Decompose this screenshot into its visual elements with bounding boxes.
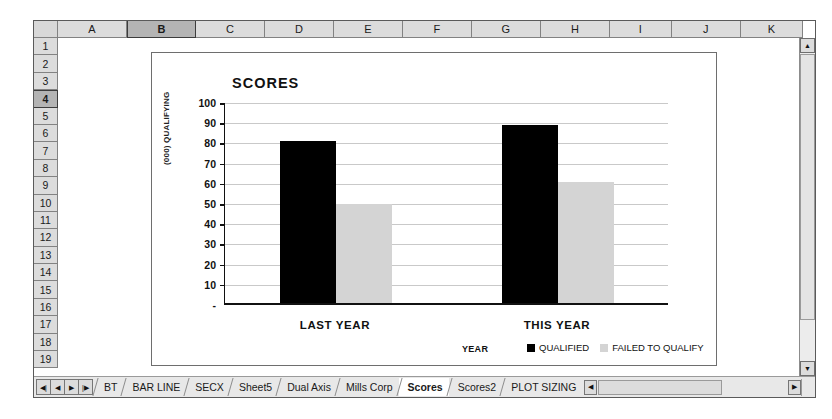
column-header-a[interactable]: A xyxy=(58,21,127,38)
y-tick-label-100: 100 xyxy=(198,97,216,109)
horizontal-scrollbar[interactable]: ◀ ▶ xyxy=(584,379,816,396)
y-tick-100 xyxy=(220,103,225,105)
category-label-this-year: THIS YEAR xyxy=(446,319,668,331)
row-header-1[interactable]: 1 xyxy=(34,38,58,55)
sheet-tab-secx[interactable]: SECX xyxy=(186,378,230,396)
y-axis-title: (000) QUALIFYING xyxy=(162,151,171,165)
column-header-e[interactable]: E xyxy=(334,21,403,38)
gridline-90 xyxy=(225,123,668,124)
column-header-b[interactable]: B xyxy=(127,21,196,38)
sheet-tab-scores[interactable]: Scores xyxy=(399,378,449,396)
last-sheet-icon[interactable]: |▶ xyxy=(78,379,93,395)
plot-area xyxy=(224,103,668,305)
scroll-right-icon[interactable]: ▶ xyxy=(788,380,801,395)
y-tick-label-50: 50 xyxy=(204,198,216,210)
row-header-13[interactable]: 13 xyxy=(34,247,58,264)
bar-this-year-failed-to-qualify[interactable] xyxy=(558,182,614,303)
y-tick-60 xyxy=(220,184,225,186)
y-tick-20 xyxy=(220,265,225,267)
gridline-100 xyxy=(225,103,668,104)
y-tick-40 xyxy=(220,224,225,226)
y-tick-label-20: 20 xyxy=(204,259,216,271)
row-header-8[interactable]: 8 xyxy=(34,160,58,177)
legend-label: FAILED TO QUALIFY xyxy=(612,342,704,353)
sheet-tabs: BTBAR LINESECXSheet5Dual AxisMills CorpS… xyxy=(95,378,582,397)
sheet-tab-plot-sizing[interactable]: PLOT SIZING xyxy=(502,378,582,396)
row-header-10[interactable]: 10 xyxy=(34,195,58,212)
y-tick-label-10: 10 xyxy=(204,279,216,291)
sheet-tab-bar-line[interactable]: BAR LINE xyxy=(123,378,186,396)
y-tick-10 xyxy=(220,285,225,287)
column-header-j[interactable]: J xyxy=(672,21,741,38)
row-header-6[interactable]: 6 xyxy=(34,125,58,142)
chart-plot-wrapper: (000) QUALIFYING 100908070605040302010- … xyxy=(152,53,718,367)
sheet-tab-bt[interactable]: BT xyxy=(95,378,123,396)
sheet-tab-mills-corp[interactable]: Mills Corp xyxy=(337,378,399,396)
y-tick-30 xyxy=(220,244,225,246)
bar-this-year-qualified[interactable] xyxy=(502,125,558,303)
sheet-tab-scores2[interactable]: Scores2 xyxy=(449,378,503,396)
first-sheet-icon[interactable]: ◀| xyxy=(36,379,51,395)
row-header-15[interactable]: 15 xyxy=(34,281,58,298)
horizontal-scroll-track[interactable] xyxy=(598,380,722,395)
vertical-scrollbar[interactable]: ▲ ▼ xyxy=(799,38,815,376)
vertical-scroll-thumb[interactable] xyxy=(800,54,815,320)
row-header-12[interactable]: 12 xyxy=(34,229,58,246)
row-header-17[interactable]: 17 xyxy=(34,316,58,333)
y-tick-70 xyxy=(220,164,225,166)
row-header-2[interactable]: 2 xyxy=(34,55,58,72)
spreadsheet-window: ABCDEFGHIJK 1234567891011121314151617181… xyxy=(33,20,816,398)
row-header-11[interactable]: 11 xyxy=(34,212,58,229)
column-header-i[interactable]: I xyxy=(610,21,672,38)
y-axis-tick-labels: 100908070605040302010- xyxy=(182,103,216,305)
scroll-up-icon[interactable]: ▲ xyxy=(800,38,815,53)
chart-object[interactable]: SCORES (000) QUALIFYING 1009080706050403… xyxy=(151,52,717,366)
next-sheet-icon[interactable]: ▶ xyxy=(64,379,79,395)
bar-last-year-qualified[interactable] xyxy=(280,141,336,303)
x-axis-title: YEAR xyxy=(462,344,488,354)
previous-sheet-icon[interactable]: ◀ xyxy=(50,379,65,395)
y-tick-label-60: 60 xyxy=(204,178,216,190)
row-header-14[interactable]: 14 xyxy=(34,264,58,281)
sheet-tab-dual-axis[interactable]: Dual Axis xyxy=(278,378,337,396)
column-header-c[interactable]: C xyxy=(196,21,265,38)
y-tick-label-zero: - xyxy=(213,299,217,311)
row-header-7[interactable]: 7 xyxy=(34,142,58,159)
row-header-column: 12345678910111213141516171819 xyxy=(34,38,58,368)
select-all-corner[interactable] xyxy=(34,21,58,38)
category-label-last-year: LAST YEAR xyxy=(224,319,446,331)
legend-item-failed-to-qualify[interactable]: FAILED TO QUALIFY xyxy=(600,342,704,353)
column-header-h[interactable]: H xyxy=(541,21,610,38)
legend-item-qualified[interactable]: QUALIFIED xyxy=(527,342,589,353)
sheet-nav-buttons: ◀|◀▶|▶ xyxy=(34,379,92,395)
column-header-g[interactable]: G xyxy=(472,21,541,38)
chart-legend: QUALIFIEDFAILED TO QUALIFY xyxy=(527,342,704,353)
column-header-d[interactable]: D xyxy=(265,21,334,38)
y-tick-label-80: 80 xyxy=(204,137,216,149)
y-tick-label-30: 30 xyxy=(204,238,216,250)
y-tick-50 xyxy=(220,204,225,206)
y-tick-label-40: 40 xyxy=(204,218,216,230)
sheet-grid[interactable]: SCORES (000) QUALIFYING 1009080706050403… xyxy=(58,38,799,376)
y-tick-90 xyxy=(220,123,225,125)
row-header-3[interactable]: 3 xyxy=(34,73,58,90)
column-header-f[interactable]: F xyxy=(403,21,472,38)
tabbar-corner-pad xyxy=(801,379,816,396)
scroll-down-icon[interactable]: ▼ xyxy=(800,361,815,376)
scroll-left-icon[interactable]: ◀ xyxy=(584,380,597,395)
row-header-19[interactable]: 19 xyxy=(34,351,58,368)
sheet-tab-sheet5[interactable]: Sheet5 xyxy=(230,378,278,396)
row-header-16[interactable]: 16 xyxy=(34,299,58,316)
row-header-5[interactable]: 5 xyxy=(34,108,58,125)
legend-label: QUALIFIED xyxy=(539,342,589,353)
bar-last-year-failed-to-qualify[interactable] xyxy=(336,204,392,303)
legend-swatch-icon xyxy=(600,344,608,352)
column-header-row: ABCDEFGHIJK xyxy=(34,21,816,38)
row-header-18[interactable]: 18 xyxy=(34,334,58,351)
sheet-tab-bar: ◀|◀▶|▶ BTBAR LINESECXSheet5Dual AxisMill… xyxy=(34,376,816,397)
y-tick-label-90: 90 xyxy=(204,117,216,129)
column-header-k[interactable]: K xyxy=(741,21,803,38)
row-header-9[interactable]: 9 xyxy=(34,177,58,194)
row-header-4[interactable]: 4 xyxy=(34,90,58,107)
legend-swatch-icon xyxy=(527,344,535,352)
